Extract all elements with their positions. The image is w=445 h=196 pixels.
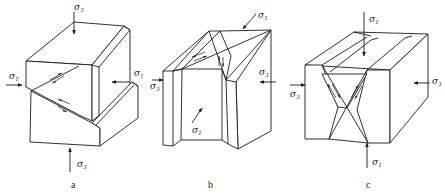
panel-b-left-label: σ3 [150,81,160,92]
panel-a-bottom-label: σ3 [77,159,87,170]
panel-c-left-label: σ3 [290,89,300,100]
panel-b-top-stress-arrow [243,14,256,29]
panel-a-left-label: σ1 [9,71,19,82]
panel-a-right-label: σ1 [134,68,144,79]
panel-c: σ1 σ3 σ3 σ1 c [290,12,442,190]
panel-c-top-label: σ1 [369,14,379,25]
panel-a-caption: a [71,179,76,190]
panel-c-bottom-label: σ1 [372,157,382,168]
panel-a: σ3 σ1 σ1 σ3 a [6,2,144,190]
panel-b-top-label: σ1 [258,10,268,21]
panel-b-caption: b [208,179,213,190]
panel-b-left-front [163,71,173,146]
panel-b-right-front [226,80,238,149]
panel-c-right-label: σ3 [432,76,442,87]
panel-c-caption: c [366,179,371,190]
panel-a-top-label: σ3 [74,2,84,13]
panel-b-left-top [173,31,220,71]
fault-stress-diagram: σ3 σ1 σ1 σ3 a [0,0,445,196]
panel-b: σ1 σ3 σ3 σ1 b [150,10,276,190]
